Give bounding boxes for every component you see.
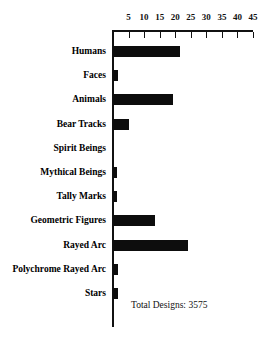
bar [113,119,129,130]
total-designs-annotation: Total Designs: 3575 [131,300,207,311]
category-label: Mythical Beings [0,167,106,178]
bar [113,70,118,81]
x-axis-tick-label: 45 [243,13,263,22]
x-axis-tick [237,32,238,38]
category-label: Stars [0,288,106,299]
category-label: Spirit Beings [0,143,106,154]
bar-row: Humans [0,42,269,66]
x-axis-tick [144,32,145,38]
x-axis-tick [222,32,223,38]
bar-row: Mythical Beings [0,163,269,187]
x-axis-tick [129,32,130,38]
bar-row: Rayed Arc [0,236,269,260]
bar [113,46,180,57]
bar-row: Polychrome Rayed Arc [0,260,269,284]
bar-row: Animals [0,90,269,114]
bar [113,240,188,251]
bar [113,191,117,202]
category-label: Tally Marks [0,191,106,202]
category-label: Humans [0,46,106,57]
bar-chart: 51015202530354045 HumansFacesAnimalsBear… [0,0,269,338]
category-label: Geometric Figures [0,215,106,226]
x-axis-tick [160,32,161,38]
category-label: Faces [0,70,106,81]
category-label: Animals [0,94,106,105]
category-label: Bear Tracks [0,119,106,130]
bar-row: Faces [0,66,269,90]
bar [113,94,173,105]
bar [113,215,155,226]
bar [113,264,118,275]
x-axis-tick [253,32,254,38]
bar [113,167,117,178]
bar-row: Geometric Figures [0,211,269,235]
x-axis-tick [206,32,207,38]
x-axis-tick [175,32,176,38]
x-axis-line [112,30,253,32]
x-axis-tick [191,32,192,38]
category-label: Polychrome Rayed Arc [0,264,106,275]
bar-row: Bear Tracks [0,115,269,139]
bar-row: Spirit Beings [0,139,269,163]
bar-row: Tally Marks [0,187,269,211]
bar [113,288,118,299]
category-label: Rayed Arc [0,240,106,251]
